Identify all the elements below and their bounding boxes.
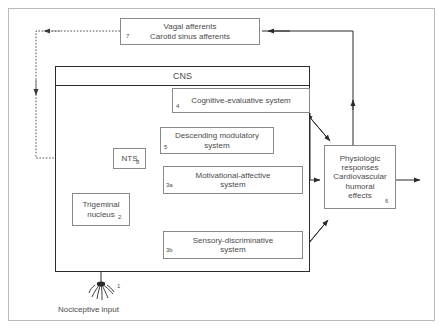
nts-number: 8 xyxy=(136,159,139,165)
motivational-text: Motivational-affective system xyxy=(192,171,275,189)
diagram-canvas: CNS Vagal afferents Carotid sinus affere… xyxy=(0,0,443,331)
descending-number: 5 xyxy=(164,144,167,150)
cns-header-label: CNS xyxy=(55,66,310,86)
nerve-ending-icon xyxy=(89,282,114,300)
sensory-line1: Sensory-discriminative xyxy=(193,236,273,245)
nts-box[interactable]: NTS xyxy=(113,148,146,169)
nociceptive-caption: Nociceptive input xyxy=(58,305,119,314)
physio-line4: humoral xyxy=(346,182,375,191)
afferents-text: Vagal afferents Carotid sinus afferents xyxy=(146,22,234,40)
afferents-box[interactable]: Vagal afferents Carotid sinus afferents xyxy=(120,18,260,45)
descending-modulatory-box[interactable]: Descending modulatory system xyxy=(160,127,274,154)
physio-line2: responses xyxy=(342,163,379,172)
nociceptive-number: 1 xyxy=(117,283,120,289)
sensory-discriminative-box[interactable]: Sensory-discriminative system xyxy=(163,231,303,259)
descending-text: Descending modulatory system xyxy=(171,131,263,149)
sensory-line2: system xyxy=(220,245,245,254)
physio-text: Physiologic responses Cardiovascular hum… xyxy=(329,154,390,200)
sensory-text: Sensory-discriminative system xyxy=(189,236,277,254)
afferents-line1: Vagal afferents xyxy=(163,22,216,31)
trigeminal-nucleus-box[interactable]: Trigeminal nucleus xyxy=(72,193,130,226)
descending-line1: Descending modulatory xyxy=(175,131,259,140)
cognitive-label: Cognitive-evaluative system xyxy=(187,96,295,105)
afferents-number: 7 xyxy=(126,33,129,39)
cognitive-evaluative-box[interactable]: Cognitive-evaluative system xyxy=(172,88,310,113)
trigeminal-number: 2 xyxy=(118,214,121,220)
afferents-line2: Carotid sinus afferents xyxy=(150,32,230,41)
physio-line1: Physiologic xyxy=(340,154,380,163)
physio-line5: effects xyxy=(348,191,371,200)
trigeminal-text: Trigeminal nucleus xyxy=(78,200,123,218)
cognitive-number: 4 xyxy=(176,103,179,109)
trigeminal-line2: nucleus xyxy=(87,210,115,219)
sensory-number: 3b xyxy=(166,247,173,253)
motivational-number: 3a xyxy=(166,182,173,188)
physiologic-number: 6 xyxy=(385,198,388,204)
trigeminal-line1: Trigeminal xyxy=(82,200,119,209)
motivational-line2: system xyxy=(220,180,245,189)
physio-line3: Cardiovascular xyxy=(333,172,386,181)
descending-line2: system xyxy=(204,141,229,150)
motivational-line1: Motivational-affective xyxy=(196,171,271,180)
motivational-affective-box[interactable]: Motivational-affective system xyxy=(163,166,303,194)
